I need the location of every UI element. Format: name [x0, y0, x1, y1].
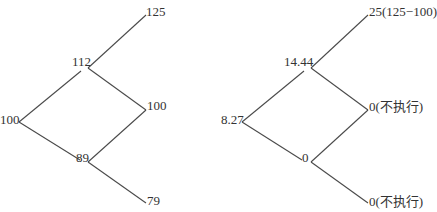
stock-node-up-down: 100 — [147, 99, 167, 113]
edge-stock-root-down — [19, 122, 80, 160]
edge-stock-root-up — [19, 71, 81, 122]
stock-node-up: 112 — [72, 55, 91, 69]
option-node-up-down: 0(不执行) — [369, 100, 423, 114]
edge-stock-up-upup — [88, 15, 146, 68]
stock-node-down: 89 — [76, 151, 89, 165]
edge-option-up-upup — [311, 15, 368, 68]
edge-option-up-updown — [311, 68, 368, 110]
edge-stock-up-updown — [88, 68, 146, 110]
edge-option-down-updown — [311, 110, 368, 162]
stock-node-up-up: 125 — [146, 5, 166, 19]
stock-node-down-down: 79 — [147, 194, 160, 208]
option-node-down: 0 — [302, 151, 309, 165]
option-node-root: 8.27 — [221, 113, 244, 127]
option-node-up-up: 25(125−100) — [369, 5, 437, 19]
edge-option-root-down — [242, 122, 302, 160]
edge-option-down-downdown — [311, 162, 368, 203]
option-node-down-down: 0(不执行) — [369, 195, 423, 209]
option-node-up: 14.44 — [284, 55, 313, 69]
edge-stock-down-downdown — [88, 162, 146, 203]
edge-option-root-up — [242, 71, 304, 122]
stock-node-root: 100 — [0, 113, 20, 127]
edge-stock-down-updown — [88, 110, 146, 162]
